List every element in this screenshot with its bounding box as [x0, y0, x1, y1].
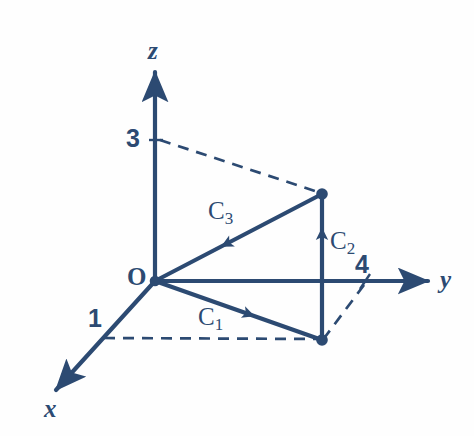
x-axis-label: x	[44, 396, 57, 421]
curve-c3-label: C3	[208, 198, 233, 227]
curve-c1	[155, 281, 322, 340]
curve-c1-label: C1	[198, 304, 223, 333]
figure-canvas: z x y 3 1 4 O C1 C2 C3	[0, 0, 474, 436]
x-axis-tick-label-1: 1	[88, 306, 102, 331]
curve-c3-line	[155, 194, 322, 281]
curve-c3-label-base: C	[208, 197, 225, 224]
z-axis-label: z	[148, 38, 158, 63]
origin-label: O	[127, 264, 146, 289]
curve-c2-label: C2	[330, 228, 355, 257]
curve-c1-label-sub: 1	[215, 315, 224, 334]
curve-c1-line	[155, 281, 322, 340]
curve-c2-label-sub: 2	[347, 239, 356, 258]
dashed-guide-x-to-lower-vertex	[104, 338, 318, 339]
x-axis-line	[56, 281, 155, 390]
vertex-dot-group	[150, 188, 328, 346]
axis-group	[56, 72, 428, 390]
upper-vertex-dot	[316, 188, 328, 200]
curve-c3-label-sub: 3	[225, 209, 234, 228]
z-axis-tick-label-3: 3	[126, 126, 140, 151]
curve-c3	[155, 194, 322, 281]
curve-c2-label-base: C	[330, 227, 347, 254]
curve-c1-label-base: C	[198, 303, 215, 330]
curve-c3-direction-arrow	[218, 236, 235, 253]
origin-vertex-dot	[150, 276, 161, 287]
curve-c2	[316, 194, 328, 340]
figure-svg	[0, 0, 474, 436]
lower-vertex-dot	[316, 334, 328, 346]
y-axis-tick-label-4: 4	[355, 252, 369, 277]
dashed-guide-y-to-lower-vertex	[325, 285, 364, 337]
y-axis-label: y	[440, 267, 451, 292]
dashed-guide-z-to-upper-vertex	[160, 140, 318, 192]
